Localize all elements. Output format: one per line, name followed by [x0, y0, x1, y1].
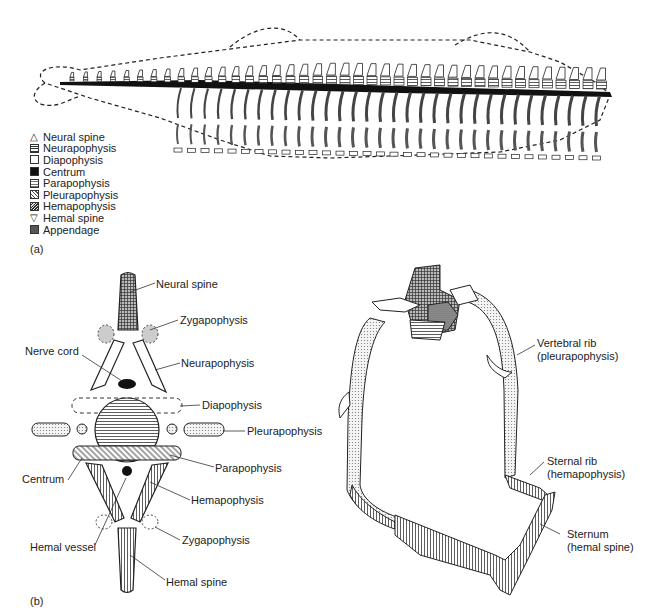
label-neural-spine: Neural spine	[156, 278, 218, 290]
label-neurapophysis: Neurapophysis	[181, 357, 254, 369]
figure-drawing	[0, 0, 651, 616]
legend-item-centrum: Centrum	[30, 166, 118, 178]
label-nerve-cord: Nerve cord	[25, 345, 79, 357]
legend-item-parapophysis: Parapophysis	[30, 177, 118, 189]
horizontal-hatch-light-swatch-icon	[30, 179, 39, 188]
label-centrum: Centrum	[22, 473, 64, 485]
panel-b-label: (b)	[30, 595, 43, 607]
fish-skeleton	[34, 28, 612, 160]
legend-item-neural-spine: △Neural spine	[30, 131, 118, 143]
label-vertebral-rib: Vertebral rib	[537, 337, 596, 349]
label-sternal-rib: Sternal rib	[547, 455, 597, 467]
open-triangle-down-icon: ▽	[30, 213, 39, 222]
label-sternal-rib-sub: (hemapophysis)	[547, 468, 625, 480]
label-sternum-sub: (hemal spine)	[567, 541, 634, 553]
label-hemapophysis: Hemapophysis	[191, 494, 264, 506]
label-pleurapophysis: Pleurapophysis	[247, 425, 322, 437]
panel-a-label: (a)	[30, 243, 43, 255]
label-hemal-spine: Hemal spine	[166, 576, 227, 588]
label-zygapophysis-top: Zygapophysis	[180, 314, 248, 326]
legend-item-neurapophysis: Neurapophysis	[30, 143, 118, 155]
legend-item-diapophysis: Diapophysis	[30, 154, 118, 166]
solid-black-swatch-icon	[30, 167, 39, 176]
legend-item-hemapophysis: Hemapophysis	[30, 201, 118, 213]
legend-item-hemal-spine: ▽Hemal spine	[30, 212, 118, 224]
label-sternum: Sternum	[567, 528, 609, 540]
label-parapophysis: Parapophysis	[215, 462, 282, 474]
legend-item-pleurapophysis: Pleurapophysis	[30, 189, 118, 201]
open-triangle-up-icon: △	[30, 132, 39, 141]
label-zygapophysis-bottom: Zygapophysis	[182, 534, 250, 546]
label-vertebral-rib-sub: (pleurapophysis)	[537, 350, 618, 362]
horizontal-hatch-swatch-icon	[30, 144, 39, 153]
legend-item-appendage: Appendage	[30, 224, 118, 236]
crosshatch-dark-swatch-icon	[30, 225, 39, 234]
label-diapophysis: Diapophysis	[202, 399, 262, 411]
open-square-icon	[30, 155, 39, 164]
ribcage-diagram	[339, 265, 560, 595]
diagonal-hatch-dense-swatch-icon	[30, 202, 39, 211]
label-hemal-vessel: Hemal vessel	[30, 541, 96, 553]
legend: △Neural spine Neurapophysis Diapophysis …	[30, 131, 118, 235]
diagonal-hatch-swatch-icon	[30, 190, 39, 199]
